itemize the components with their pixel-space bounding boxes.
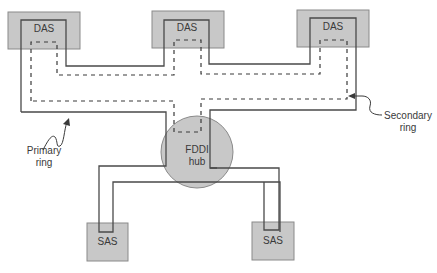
sas-label-1: SAS bbox=[87, 236, 128, 247]
hub-label-line1: FDDI bbox=[170, 144, 224, 155]
secondary-ring-arrowhead bbox=[348, 93, 355, 99]
primary-ring-path-left bbox=[21, 112, 280, 232]
secondary-ring-label-line1: Secondary bbox=[380, 110, 436, 121]
primary-ring-label-line2: ring bbox=[20, 157, 68, 168]
primary-ring-label-line1: Primary bbox=[20, 145, 68, 156]
sas-label-2: SAS bbox=[252, 235, 294, 246]
das-label-1: DAS bbox=[21, 23, 67, 34]
secondary-ring-label-line2: ring bbox=[380, 122, 436, 133]
fddi-diagram bbox=[0, 0, 437, 273]
hub-label-line2: hub bbox=[170, 156, 224, 167]
das-label-2: DAS bbox=[164, 22, 210, 33]
das-label-3: DAS bbox=[310, 21, 356, 32]
primary-ring-arrowhead bbox=[63, 118, 70, 126]
